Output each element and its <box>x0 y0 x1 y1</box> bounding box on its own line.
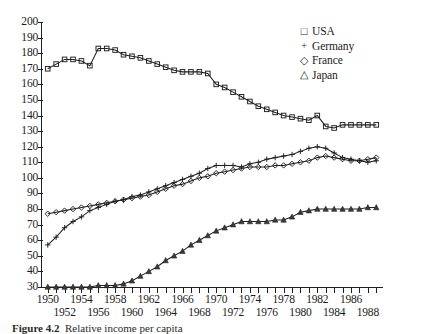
data-point <box>272 155 277 160</box>
y-axis-tick-label: 200 <box>21 16 38 28</box>
y-axis-tick-label: 70 <box>27 219 38 231</box>
legend-item-france: ◇ France <box>296 53 396 68</box>
legend-label: USA <box>312 25 335 37</box>
x-axis-tick-label: 1962 <box>138 293 160 305</box>
data-point <box>214 163 219 168</box>
series-germany <box>45 144 379 248</box>
data-point <box>146 269 151 274</box>
data-point <box>180 248 185 253</box>
x-axis-tick-label: 1968 <box>188 306 210 318</box>
square-icon: □ <box>296 26 312 37</box>
x-axis-tick-label: 1964 <box>155 306 177 318</box>
y-axis-tick-label: 140 <box>21 110 38 122</box>
x-axis-tick-label: 1980 <box>289 306 311 318</box>
x-axis-tick-label: 1972 <box>222 306 244 318</box>
caption-text: Relative income per capita <box>65 322 183 334</box>
legend-label: France <box>312 54 343 66</box>
x-axis-tick-label: 1954 <box>70 293 92 305</box>
series-line <box>48 208 377 288</box>
y-axis-tick-label: 130 <box>21 125 38 137</box>
triangle-icon: △ <box>296 69 312 80</box>
y-axis-tick-label: 110 <box>22 156 38 168</box>
data-point <box>289 152 294 157</box>
data-point <box>205 233 210 238</box>
data-point <box>171 253 176 258</box>
diamond-icon: ◇ <box>296 55 312 66</box>
legend-label: Japan <box>312 69 338 81</box>
y-axis-tick-label: 160 <box>21 78 38 90</box>
data-point <box>205 166 210 171</box>
x-axis-tick-label: 1978 <box>272 293 294 305</box>
x-axis-tick-label: 1960 <box>121 306 143 318</box>
y-axis-tick-label: 60 <box>27 234 38 246</box>
caption-label: Figure 4.2 <box>12 322 59 334</box>
y-axis-tick-label: 100 <box>21 172 38 184</box>
data-point <box>155 264 160 269</box>
data-point <box>264 156 269 161</box>
data-point <box>289 214 294 219</box>
x-axis-labels-lower: 1952195619601964196819721976198019841988 <box>0 306 424 319</box>
x-axis-tick-label: 1988 <box>357 306 379 318</box>
data-point <box>281 153 286 158</box>
y-axis-tick-label: 190 <box>21 32 38 44</box>
x-axis-tick-label: 1956 <box>87 306 109 318</box>
data-point <box>323 146 328 151</box>
series-line <box>48 147 377 245</box>
data-point <box>188 242 193 247</box>
chart-legend: □ USA + Germany ◇ France △ Japan <box>296 24 396 82</box>
x-axis-tick-label: 1966 <box>171 293 193 305</box>
data-point <box>222 163 227 168</box>
series-japan <box>45 205 379 290</box>
y-axis-tick-label: 90 <box>27 187 38 199</box>
legend-item-japan: △ Japan <box>296 68 396 83</box>
x-axis-tick-label: 1958 <box>104 293 126 305</box>
data-point <box>197 237 202 242</box>
data-point <box>315 144 320 149</box>
data-point <box>163 258 168 263</box>
y-axis-tick-label: 180 <box>21 47 38 59</box>
data-point <box>138 273 143 278</box>
plus-icon: + <box>296 40 312 51</box>
x-axis-tick-label: 1982 <box>306 293 328 305</box>
y-axis-tick-label: 120 <box>21 141 38 153</box>
x-axis-tick-label: 1950 <box>37 293 59 305</box>
y-axis-labels: 2001901801701601501401301201101009080706… <box>0 22 38 288</box>
y-axis-tick-label: 50 <box>27 250 38 262</box>
legend-item-germany: + Germany <box>296 39 396 54</box>
data-point <box>129 278 134 283</box>
x-axis-tick-label: 1984 <box>323 306 345 318</box>
data-point <box>298 149 303 154</box>
data-point <box>306 146 311 151</box>
y-axis-tick-label: 40 <box>27 265 38 277</box>
x-axis-tick-label: 1952 <box>53 306 75 318</box>
data-point <box>45 66 50 71</box>
x-axis-tick-label: 1986 <box>340 293 362 305</box>
x-axis-labels-upper: 1950195419581962196619701974197819821986 <box>0 293 424 306</box>
x-axis-tick-label: 1970 <box>205 293 227 305</box>
legend-item-usa: □ USA <box>296 24 396 39</box>
series-france <box>45 153 379 216</box>
x-axis-tick-label: 1974 <box>239 293 261 305</box>
y-axis-tick-label: 170 <box>21 63 38 75</box>
legend-label: Germany <box>312 40 354 52</box>
y-axis-tick-label: 80 <box>27 203 38 215</box>
y-axis-tick-label: 150 <box>21 94 38 106</box>
series-line <box>48 156 377 214</box>
figure-caption: Figure 4.2 Relative income per capita <box>12 322 424 334</box>
x-axis-tick-label: 1976 <box>256 306 278 318</box>
y-axis-tick-label: 30 <box>27 281 38 293</box>
